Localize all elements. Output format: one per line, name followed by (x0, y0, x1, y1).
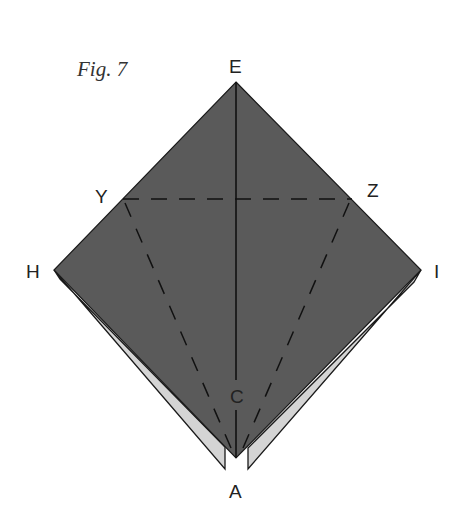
point-label-a: A (229, 481, 242, 502)
point-label-y: Y (95, 186, 108, 207)
point-label-c: C (230, 386, 244, 407)
point-label-e: E (229, 56, 242, 77)
point-label-h: H (26, 261, 40, 282)
point-label-i: I (434, 261, 439, 282)
point-label-z: Z (367, 180, 379, 201)
origami-diagram: Fig. 7 E H I Y Z C A (0, 0, 459, 528)
figure-title: Fig. 7 (76, 57, 129, 81)
